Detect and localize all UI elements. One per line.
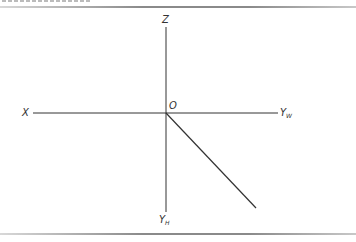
origin-label: O [169, 101, 177, 111]
diagram-canvas: Z X O YW YH [0, 0, 356, 242]
axes-drawing [0, 0, 356, 242]
bottom-divider [0, 233, 356, 235]
yh-subscript: H [165, 219, 170, 226]
yw-axis-label: YW [280, 108, 292, 121]
x-axis-label: X [22, 108, 29, 118]
yw-subscript: W [286, 112, 292, 119]
z-axis-label: Z [162, 15, 169, 25]
yh-axis-label: YH [159, 215, 170, 228]
diagonal-line [166, 113, 256, 208]
